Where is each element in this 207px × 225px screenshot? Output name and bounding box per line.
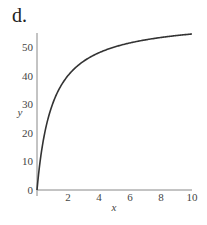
data-curve	[37, 34, 192, 190]
axes	[37, 33, 192, 196]
x-tick-label: 2	[65, 191, 71, 203]
y-tick-label: 10	[22, 155, 34, 167]
tick-labels: 24681001020304050	[22, 41, 198, 203]
y-tick-label: 30	[22, 98, 34, 110]
x-tick-label: 10	[187, 191, 199, 203]
y-tick-label: 50	[22, 41, 34, 53]
line-chart: 24681001020304050 x y	[0, 0, 207, 225]
x-tick-label: 6	[127, 191, 133, 203]
x-axis-label: x	[111, 201, 117, 213]
y-axis-label: y	[17, 106, 23, 118]
x-tick-label: 4	[96, 191, 102, 203]
x-tick-label: 8	[158, 191, 164, 203]
y-tick-label: 0	[28, 184, 34, 196]
y-tick-label: 20	[22, 127, 34, 139]
y-tick-label: 40	[22, 70, 34, 82]
